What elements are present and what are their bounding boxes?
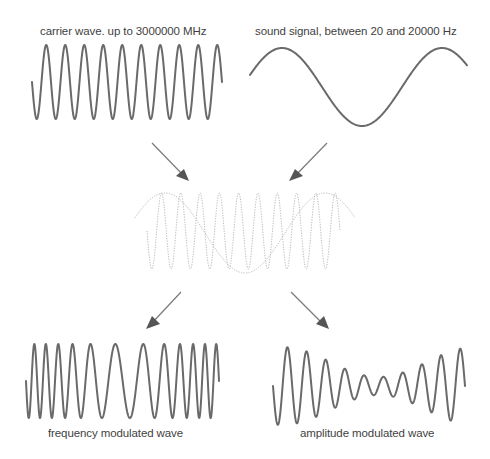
sound-signal-wave	[250, 48, 467, 126]
modulation-diagram	[0, 0, 490, 459]
arrow-sound-to-combined	[289, 143, 327, 181]
arrow-carrier-to-combined	[152, 143, 189, 181]
combined-sound-dotted	[135, 193, 355, 273]
arrow-combined-to-fm	[146, 292, 181, 329]
arrow-combined-to-am	[291, 292, 329, 329]
am-wave	[273, 347, 465, 425]
fm-wave	[26, 344, 219, 418]
carrier-wave	[32, 45, 222, 119]
combined-carrier-dotted	[147, 193, 340, 269]
